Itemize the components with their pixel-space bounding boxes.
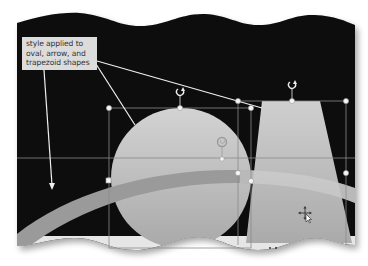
callout-line-3: trapezoid shapes [26, 58, 94, 68]
callout-line-2: oval, arrow, and [26, 49, 94, 59]
callout-box: style applied to oval, arrow, and trapez… [22, 37, 97, 70]
callout-line-1: style applied to [26, 39, 94, 49]
